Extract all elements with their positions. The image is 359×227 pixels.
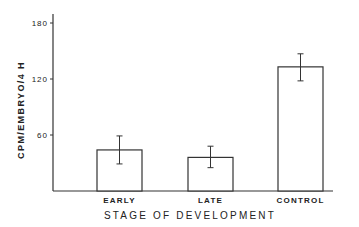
x-tick-label: EARLY <box>103 196 135 205</box>
y-axis-title: CPM/EMBRYO/4 H <box>16 61 26 159</box>
y-axis: 60120180 <box>32 14 53 191</box>
bar-rect <box>278 67 323 191</box>
y-tick-label: 120 <box>32 75 48 84</box>
x-tick-label: LATE <box>198 196 223 205</box>
bar-chart: 60120180 EARLYLATECONTROL STAGE OF DEVEL… <box>0 0 359 227</box>
bars: EARLYLATECONTROL <box>97 54 324 205</box>
y-tick-label: 180 <box>32 19 48 28</box>
y-tick-label: 60 <box>37 131 48 140</box>
bar-early: EARLY <box>97 136 142 205</box>
x-tick-label: CONTROL <box>277 196 325 205</box>
x-axis-title: STAGE OF DEVELOPMENT <box>104 210 276 221</box>
bar-control: CONTROL <box>277 54 325 205</box>
bar-late: LATE <box>188 146 233 205</box>
